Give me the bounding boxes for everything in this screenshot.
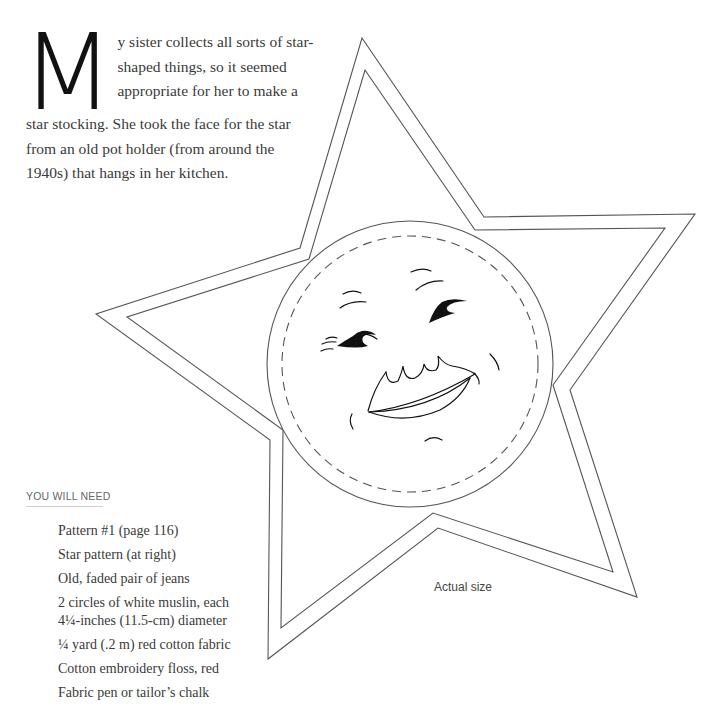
list-item: 2 circles of white muslin, each	[58, 594, 298, 612]
craft-page: M y sister collects all sorts of star- s…	[0, 0, 716, 714]
materials-heading: YOU WILL NEED	[26, 490, 103, 507]
list-item: Fabric pen or tailor’s chalk	[58, 684, 298, 702]
actual-size-caption: Actual size	[434, 580, 492, 594]
list-item: Old, faded pair of jeans	[58, 570, 298, 588]
list-item: Cotton embroidery floss, red	[58, 660, 298, 678]
drop-cap: M	[21, 34, 112, 112]
intro-line: 1940s) that hangs in her kitchen.	[26, 161, 326, 186]
face-circle	[267, 221, 553, 507]
list-item: ¼ yard (.2 m) red cotton fabric	[58, 636, 298, 654]
intro-paragraph: M y sister collects all sorts of star- s…	[26, 30, 326, 186]
list-item: 4¼-inches (11.5-cm) diameter	[58, 612, 298, 630]
list-item: Pattern #1 (page 116)	[58, 522, 298, 540]
intro-line: from an old pot holder (from around the	[26, 137, 326, 162]
materials-list: Pattern #1 (page 116) Star pattern (at r…	[58, 522, 298, 708]
list-item: Star pattern (at right)	[58, 546, 298, 564]
